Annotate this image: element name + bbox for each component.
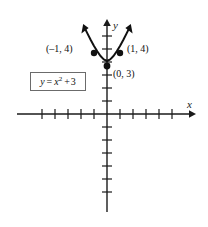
point-label-vertex: (0, 3)	[113, 69, 135, 79]
point-marker-right	[117, 50, 123, 56]
point-label-left: (–1, 4)	[46, 44, 73, 54]
point-label-right: (1, 4)	[127, 44, 149, 54]
equation-text: y=x2+3	[40, 77, 76, 87]
parabola-figure: y x (–1, 4) (1, 4) (0, 3) y=x2+3	[0, 0, 208, 227]
equation-exponent: 2	[59, 74, 63, 82]
equation-constant: 3	[71, 76, 76, 87]
x-axis-label: x	[187, 99, 192, 110]
coordinate-plane	[0, 0, 208, 227]
equation-plus: +	[64, 76, 70, 87]
point-marker-vertex	[104, 63, 111, 70]
y-axis-arrowhead	[103, 19, 111, 26]
equation-lhs: y	[40, 76, 44, 87]
equation-operator: =	[47, 76, 53, 87]
x-axis-arrowhead	[189, 110, 196, 118]
equation-box: y=x2+3	[30, 72, 86, 91]
y-axis-label: y	[113, 20, 118, 31]
point-marker-left	[91, 50, 97, 56]
